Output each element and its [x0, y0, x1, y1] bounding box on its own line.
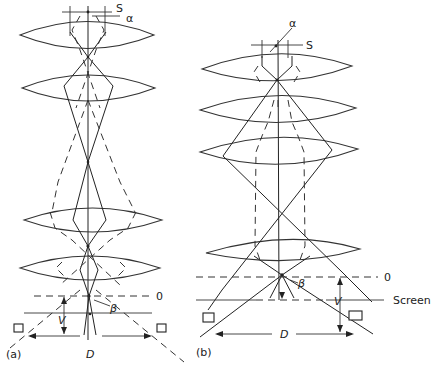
panel-a: S α	[6, 2, 184, 362]
optics-ray-diagram: S α	[0, 0, 432, 365]
lens-3-b	[200, 137, 358, 164]
dimension-d-a	[28, 333, 152, 339]
detector-right-b	[349, 311, 362, 320]
label-object-plane-a: 0	[156, 290, 163, 303]
label-d-a: D	[86, 348, 94, 361]
detector-left-b	[203, 313, 214, 322]
lens-3-a	[24, 208, 162, 232]
lens-4-b	[206, 239, 360, 260]
label-source-b: S	[306, 39, 313, 52]
label-v-b: V	[334, 295, 343, 308]
label-screen-b: Screen	[393, 294, 431, 307]
label-alpha-b: α	[289, 17, 296, 30]
detector-left-a	[14, 324, 23, 332]
label-beta-b: β	[297, 277, 305, 290]
lens-4-a	[20, 256, 160, 280]
lens-1-b	[202, 54, 352, 81]
lens-1-a	[20, 22, 154, 49]
label-v-a: V	[58, 314, 67, 327]
label-alpha-a: α	[126, 12, 133, 25]
label-source-a: S	[116, 2, 123, 15]
detector-right-a	[157, 324, 166, 332]
rays-solid-b	[200, 56, 373, 337]
panel-label-b: (b)	[196, 346, 212, 359]
panel-label-a: (a)	[6, 348, 21, 361]
label-d-b: D	[280, 328, 288, 341]
label-beta-a: β	[109, 302, 117, 315]
label-object-plane-b: 0	[384, 271, 391, 284]
panel-b: S α	[196, 17, 431, 359]
